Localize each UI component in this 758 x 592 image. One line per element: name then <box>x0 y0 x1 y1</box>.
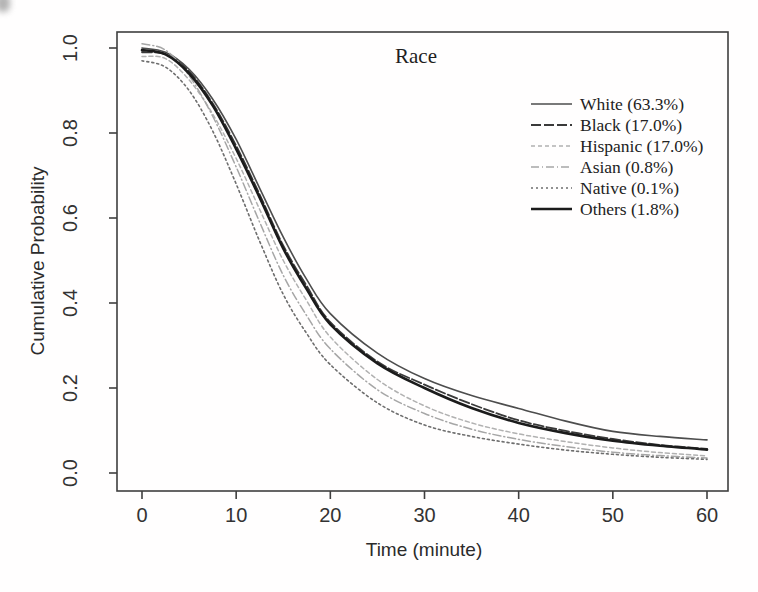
y-tick-label: 0.6 <box>59 204 81 232</box>
x-axis: 0102030405060 <box>136 491 718 526</box>
x-tick-label: 50 <box>602 504 624 526</box>
x-tick-label: 30 <box>413 504 435 526</box>
x-tick-label: 40 <box>508 504 530 526</box>
legend-label-hispanic: Hispanic (17.0%) <box>580 136 704 156</box>
x-axis-title: Time (minute) <box>366 539 482 560</box>
legend-label-white: White (63.3%) <box>580 94 684 114</box>
legend: White (63.3%)Black (17.0%)Hispanic (17.0… <box>531 94 704 219</box>
y-axis: 0.00.20.40.60.81.0 <box>59 34 117 487</box>
x-tick-label: 0 <box>136 504 147 526</box>
legend-label-native: Native (0.1%) <box>580 178 679 198</box>
y-axis-title: Cumulative Probability <box>27 166 48 356</box>
x-tick-label: 20 <box>319 504 341 526</box>
x-tick-label: 10 <box>225 504 247 526</box>
legend-label-others: Others (1.8%) <box>580 199 679 219</box>
y-tick-label: 0.4 <box>59 289 81 317</box>
x-tick-label: 60 <box>696 504 718 526</box>
y-tick-label: 0.8 <box>59 119 81 147</box>
y-tick-label: 0.0 <box>59 459 81 487</box>
legend-label-asian: Asian (0.8%) <box>580 157 673 177</box>
chart-title: Race <box>395 44 437 68</box>
y-tick-label: 0.2 <box>59 374 81 402</box>
y-tick-label: 1.0 <box>59 34 81 62</box>
plot-area: 0102030405060 0.00.20.40.60.81.0 White (… <box>0 0 758 592</box>
legend-label-black: Black (17.0%) <box>580 115 682 135</box>
survival-chart-figure: 0102030405060 0.00.20.40.60.81.0 White (… <box>0 0 758 592</box>
